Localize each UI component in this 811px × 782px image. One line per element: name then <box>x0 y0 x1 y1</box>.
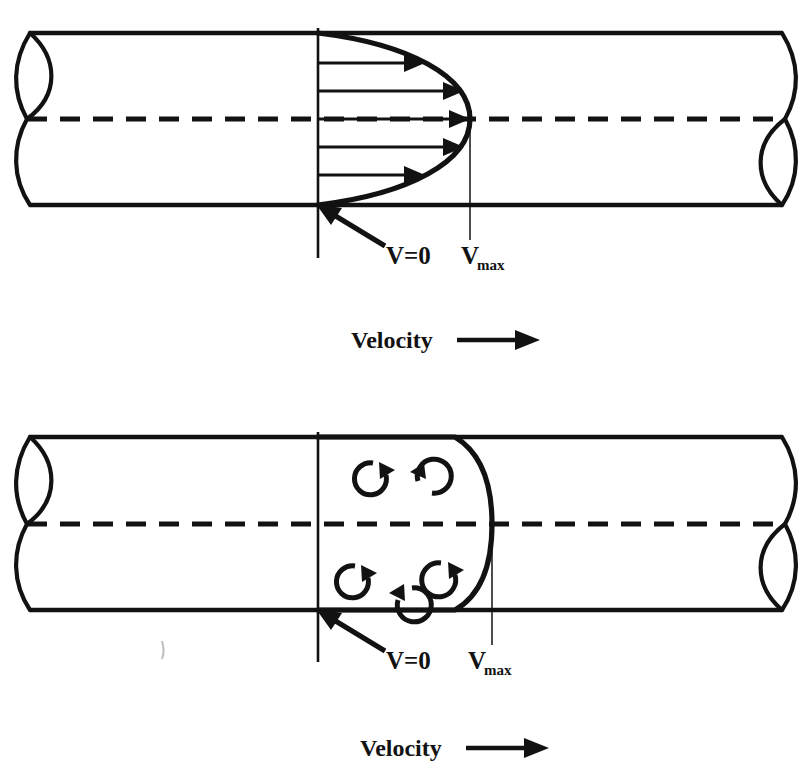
label-vmax-subscript-turbulent: max <box>484 662 512 678</box>
pipe-flow-diagram: V=0 V max Velocity <box>0 0 811 782</box>
legend-velocity-laminar: Velocity <box>351 327 540 353</box>
pipe-left-inner-arc <box>27 33 51 119</box>
pipe-left-inner-arc <box>27 437 51 524</box>
scan-speck <box>161 641 165 659</box>
laminar-velocity-vectors <box>318 54 470 184</box>
eddy-arrow <box>354 462 395 495</box>
velocity-vector <box>318 166 425 184</box>
legend-velocity-turbulent: Velocity <box>360 735 549 761</box>
velocity-vector <box>318 138 464 156</box>
velocity-vector <box>318 54 425 72</box>
eddy-arrow <box>389 584 431 622</box>
eddy-arrow <box>336 565 377 598</box>
panel-laminar: V=0 V max Velocity <box>16 28 796 353</box>
eddy-arrow <box>410 459 451 493</box>
velocity-vector <box>318 82 464 100</box>
pipe-right-inner-arc <box>761 524 785 610</box>
turbulent-eddy-arrows <box>336 459 464 622</box>
figure-root: V=0 V max Velocity <box>0 0 811 782</box>
label-v-zero-laminar: V=0 <box>386 242 431 269</box>
legend-label-laminar: Velocity <box>351 327 433 353</box>
panel-turbulent: V=0 V max Velocity <box>16 432 796 761</box>
v-zero-callout-laminar <box>316 204 385 246</box>
label-v-zero-turbulent: V=0 <box>386 647 431 674</box>
label-vmax-subscript-laminar: max <box>477 257 505 273</box>
legend-label-turbulent: Velocity <box>360 735 442 761</box>
v-zero-callout-turbulent <box>316 609 385 651</box>
velocity-vector <box>318 110 470 128</box>
pipe-right-inner-arc <box>761 119 785 205</box>
